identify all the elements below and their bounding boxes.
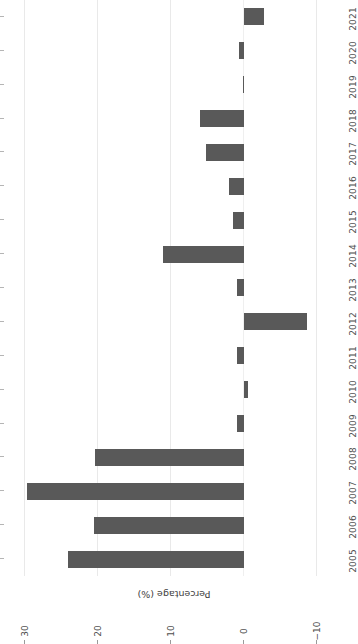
bar: [239, 42, 244, 59]
bar: [233, 212, 244, 229]
bar: [27, 483, 244, 500]
category-label: 2013: [348, 273, 358, 307]
bar: [94, 517, 244, 534]
category-tick-mark: [0, 321, 4, 322]
bar: [237, 415, 244, 432]
value-tick-label: −10: [312, 611, 322, 644]
category-label: 2014: [348, 239, 358, 273]
category-label: 2017: [348, 137, 358, 171]
category-label: 2007: [348, 476, 358, 510]
category-label: 2012: [348, 307, 358, 341]
category-tick-mark: [0, 558, 4, 559]
category-tick-mark: [0, 423, 4, 424]
category-tick-mark: [0, 524, 4, 525]
category-label: 2008: [348, 442, 358, 476]
category-tick-mark: [0, 151, 4, 152]
category-tick-mark: [0, 253, 4, 254]
category-tick-mark: [0, 118, 4, 119]
bar: [243, 76, 244, 93]
category-tick-mark: [0, 84, 4, 85]
gridline: [24, 0, 25, 576]
category-label: 2009: [348, 409, 358, 443]
category-label: 2010: [348, 375, 358, 409]
category-tick-mark: [0, 490, 4, 491]
bar: [237, 347, 244, 364]
category-label: 2011: [348, 341, 358, 375]
bar: [244, 313, 307, 330]
category-label: 2015: [348, 205, 358, 239]
bar: [200, 110, 244, 127]
value-tick-label: 0: [239, 611, 249, 644]
category-tick-mark: [0, 287, 4, 288]
value-tick-label: 30: [20, 611, 30, 644]
bar: [95, 449, 244, 466]
category-label: 2020: [348, 36, 358, 70]
category-label: 2019: [348, 70, 358, 104]
bar: [68, 551, 244, 568]
category-tick-mark: [0, 219, 4, 220]
bar: [244, 8, 264, 25]
value-tick-label: 10: [166, 611, 176, 644]
category-tick-mark: [0, 355, 4, 356]
category-tick-mark: [0, 185, 4, 186]
category-tick-mark: [0, 16, 4, 17]
category-label: 2021: [348, 2, 358, 36]
bar: [237, 280, 244, 297]
value-tick-label: 20: [93, 611, 103, 644]
category-tick-mark: [0, 50, 4, 51]
category-label: 2016: [348, 171, 358, 205]
bar: [163, 246, 244, 263]
bar: [244, 381, 248, 398]
category-label: 2005: [348, 544, 358, 578]
category-label: 2006: [348, 510, 358, 544]
category-label: 2018: [348, 104, 358, 138]
bar: [206, 144, 244, 161]
plot-area: 2005200620072008200920102011201220132014…: [0, 0, 348, 576]
value-axis-title: Percentage (%): [0, 589, 348, 600]
value-axis: 3020100−10: [0, 576, 348, 644]
category-tick-mark: [0, 389, 4, 390]
category-tick-mark: [0, 456, 4, 457]
bar: [229, 178, 244, 195]
gridline: [316, 0, 317, 576]
